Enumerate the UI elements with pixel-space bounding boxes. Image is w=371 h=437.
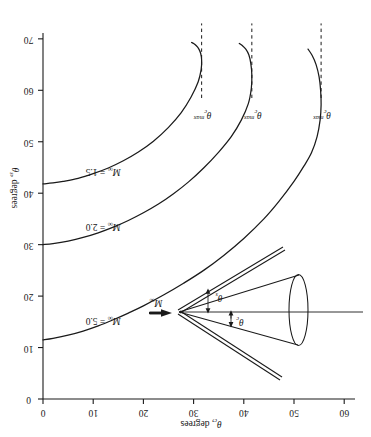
y-axis-title: θs, degrees: [9, 168, 19, 209]
freestream-arrow-head: [161, 309, 172, 316]
y-tick-label: 0: [26, 394, 31, 404]
y-tick-label: 70: [24, 34, 34, 44]
y-axis-ticks: [38, 39, 43, 399]
cone-body: [179, 275, 308, 346]
mach-curve-label: M∞ = 1.5: [86, 166, 121, 176]
theta-c-max-dashed-lines: [202, 23, 321, 98]
mach-curve-label: M∞ = 2.0: [86, 221, 121, 231]
x-tick-label: 10: [88, 407, 98, 417]
cone-shock-chart-figure: 0102030405060010203040506070θc, degreesθ…: [0, 0, 371, 437]
cone-base-ellipse: [289, 275, 308, 346]
theta-c-angle-label: θc: [236, 316, 243, 326]
theta-c-max-label: θcmax: [244, 109, 262, 121]
y-tick-label: 10: [24, 343, 34, 353]
mach-curve: [43, 49, 321, 340]
cone-shock-schematic: [149, 247, 363, 380]
x-axis-title: θc, degrees: [181, 418, 222, 428]
y-tick-label: 40: [24, 188, 34, 198]
theta-c-max-label: θcmax: [194, 109, 212, 121]
y-tick-label: 20: [24, 291, 34, 301]
x-tick-label: 60: [339, 407, 349, 417]
theta-c-arrow-head-lower: [229, 310, 234, 315]
y-tick-label: 50: [24, 137, 34, 147]
theta-s-arrow-head-upper: [206, 308, 211, 313]
x-tick-label: 30: [189, 407, 199, 417]
plot-canvas: [0, 0, 371, 437]
mach-curve-label: M∞ = 5.0: [86, 315, 121, 325]
mach-curves: [43, 42, 321, 339]
theta-s-angle-label: θs: [215, 292, 222, 302]
theta-c-max-label: θcmax: [313, 109, 331, 121]
figure-rotation-wrapper: 0102030405060010203040506070θc, degreesθ…: [0, 0, 371, 437]
freestream-mach-label: M∞: [149, 297, 162, 307]
mach-curve: [43, 43, 252, 244]
mach-curve: [43, 42, 202, 183]
x-axis-ticks: [43, 399, 344, 404]
x-tick-label: 0: [41, 407, 46, 417]
y-tick-label: 60: [24, 86, 34, 96]
y-tick-label: 30: [24, 240, 34, 250]
x-tick-label: 40: [239, 407, 249, 417]
x-tick-label: 50: [289, 407, 299, 417]
axis-lines: [43, 33, 355, 399]
x-tick-label: 20: [138, 407, 148, 417]
